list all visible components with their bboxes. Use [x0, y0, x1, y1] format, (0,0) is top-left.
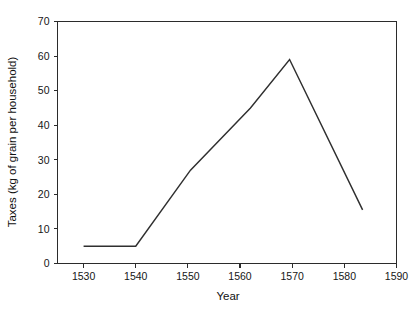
y-tick-label: 50 [38, 84, 50, 96]
y-axis-title: Taxes (kg of grain per household) [6, 56, 18, 227]
y-tick-label: 10 [38, 223, 50, 235]
x-axis-ticks: 1530154015501560157015801590 [72, 264, 408, 282]
y-tick-label: 30 [38, 154, 50, 166]
x-axis-title: Year [216, 290, 239, 302]
y-tick-label: 20 [38, 188, 50, 200]
series-taxes-line [84, 60, 363, 247]
data-series-group [84, 60, 363, 247]
chart-figure: 010203040506070 153015401550156015701580… [0, 0, 420, 320]
line-chart: 010203040506070 153015401550156015701580… [0, 0, 420, 320]
x-tick-label: 1590 [385, 270, 409, 282]
x-tick-label: 1580 [333, 270, 357, 282]
y-tick-label: 60 [38, 50, 50, 62]
x-tick-label: 1530 [72, 270, 96, 282]
y-tick-label: 70 [38, 15, 50, 27]
y-tick-label: 0 [44, 257, 50, 269]
x-tick-label: 1550 [176, 270, 200, 282]
axes-box [58, 22, 397, 264]
x-tick-label: 1540 [124, 270, 148, 282]
x-tick-label: 1570 [281, 270, 305, 282]
y-tick-label: 40 [38, 119, 50, 131]
axes-frame [58, 22, 397, 264]
x-tick-label: 1560 [228, 270, 252, 282]
y-axis-ticks: 010203040506070 [38, 15, 58, 269]
